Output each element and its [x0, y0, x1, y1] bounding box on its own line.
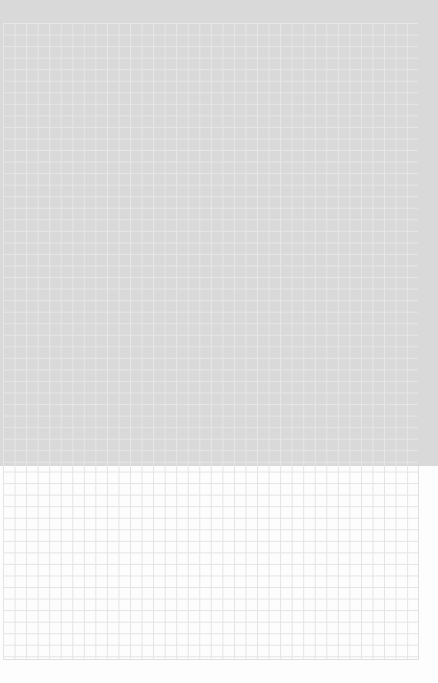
grid-lines-upper — [3, 23, 418, 466]
grid-lines-lower — [3, 466, 419, 660]
